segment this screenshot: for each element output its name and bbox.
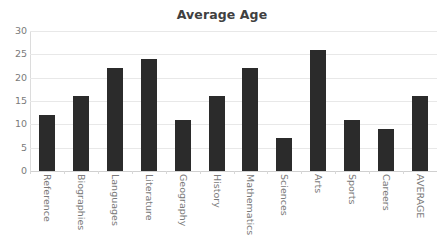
bar[interactable]	[242, 68, 258, 171]
x-tick-label: Arts	[314, 174, 324, 193]
bar[interactable]	[107, 68, 123, 171]
y-axis-tick-labels: 051015202530	[0, 31, 27, 171]
bar-slot	[403, 31, 437, 171]
x-tick-label: Literature	[144, 174, 154, 221]
x-label-slot: Sciences	[267, 174, 301, 252]
y-tick-label: 15	[3, 96, 27, 106]
x-label-slot: Biographies	[64, 174, 98, 252]
bar[interactable]	[344, 120, 360, 171]
bar[interactable]	[141, 59, 157, 171]
x-label-slot: AVERAGE	[403, 174, 437, 252]
y-tick-label: 20	[3, 73, 27, 83]
x-tick-label: Reference	[42, 174, 52, 222]
bar[interactable]	[276, 138, 292, 171]
bar-slot	[132, 31, 166, 171]
bar[interactable]	[175, 120, 191, 171]
bar-slot	[30, 31, 64, 171]
bar[interactable]	[73, 96, 89, 171]
bar[interactable]	[39, 115, 55, 171]
x-tick-label: Languages	[110, 174, 120, 226]
x-tick-label: Sciences	[280, 174, 290, 216]
bar-slot	[301, 31, 335, 171]
bar-slot	[64, 31, 98, 171]
x-axis-tick-labels: ReferenceBiographiesLanguagesLiteratureG…	[30, 174, 437, 252]
x-tick-label: Mathematics	[246, 174, 256, 235]
chart-container: Average Age 051015202530 ReferenceBiogra…	[0, 0, 444, 252]
bar-slot	[267, 31, 301, 171]
bar[interactable]	[310, 50, 326, 171]
chart-title: Average Age	[0, 7, 444, 22]
plot-area	[30, 31, 437, 171]
bar-slot	[200, 31, 234, 171]
bar-slot	[234, 31, 268, 171]
y-tick-label: 10	[3, 120, 27, 130]
y-tick-label: 0	[3, 166, 27, 176]
y-tick-label: 25	[3, 50, 27, 60]
bar-slot	[98, 31, 132, 171]
x-label-slot: Careers	[369, 174, 403, 252]
bar[interactable]	[412, 96, 428, 171]
x-label-slot: Arts	[301, 174, 335, 252]
x-tick-label: AVERAGE	[415, 174, 425, 218]
y-tick-label: 30	[3, 26, 27, 36]
x-tick-label: History	[212, 174, 222, 208]
x-label-slot: Sports	[335, 174, 369, 252]
x-label-slot: Geography	[166, 174, 200, 252]
x-label-slot: History	[200, 174, 234, 252]
bar-slot	[166, 31, 200, 171]
bar-slot	[369, 31, 403, 171]
x-label-slot: Literature	[132, 174, 166, 252]
x-tick-label: Sports	[347, 174, 357, 204]
x-label-slot: Mathematics	[234, 174, 268, 252]
y-tick-label: 5	[3, 143, 27, 153]
x-tick-label: Geography	[178, 174, 188, 226]
x-label-slot: Reference	[30, 174, 64, 252]
x-tick-label: Biographies	[76, 174, 86, 230]
x-tick-label: Careers	[381, 174, 391, 211]
bar[interactable]	[209, 96, 225, 171]
x-label-slot: Languages	[98, 174, 132, 252]
bar-slot	[335, 31, 369, 171]
bar[interactable]	[378, 129, 394, 171]
